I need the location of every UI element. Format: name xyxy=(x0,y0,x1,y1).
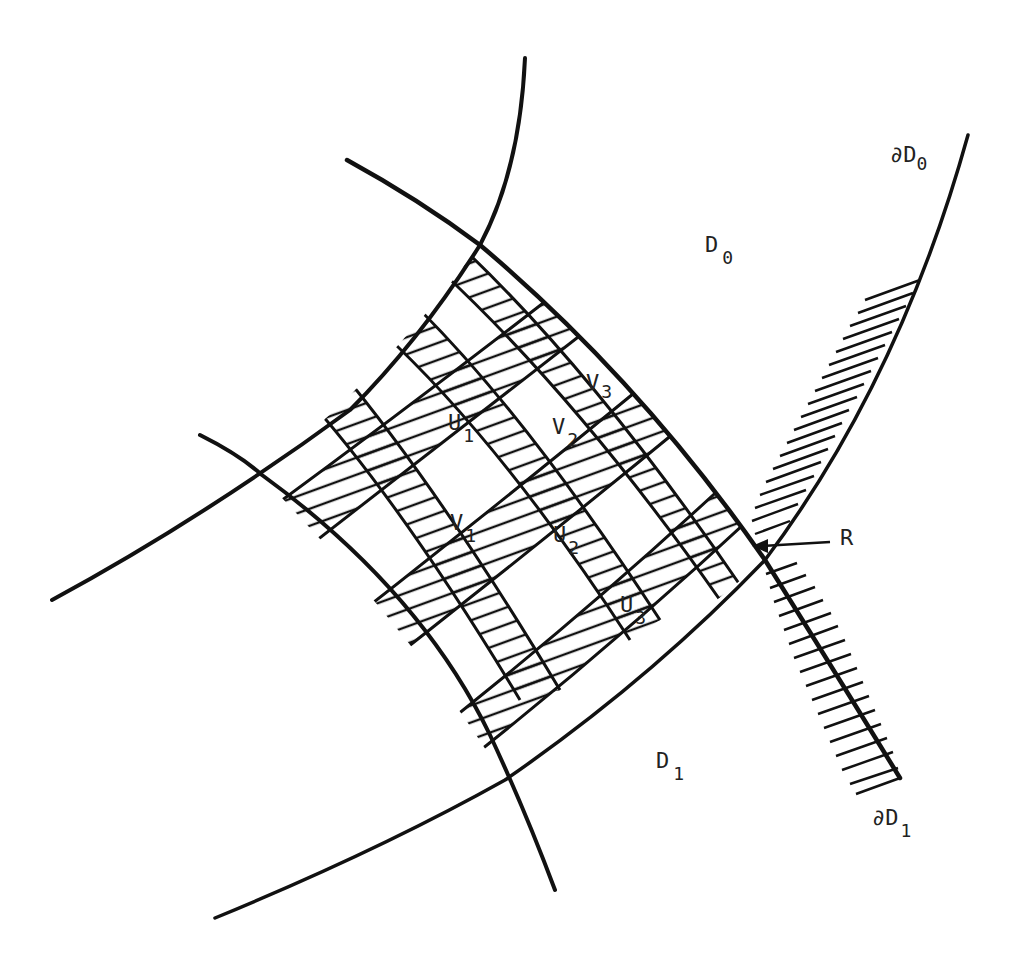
label-boundary-d0: ∂D0 xyxy=(890,142,927,174)
label-boundary-d1: ∂D1 xyxy=(872,805,911,841)
label-r: R xyxy=(840,525,854,550)
r-arrow xyxy=(752,539,830,553)
label-v2: V2 xyxy=(552,414,578,450)
label-d1: D1 xyxy=(656,748,684,784)
label-d0: D0 xyxy=(705,232,733,268)
main-curves xyxy=(52,58,968,918)
diagram-canvas: ∂D0 D0 D1 ∂D1 R U1 U2 U3 V1 V2 V3 xyxy=(0,0,1019,980)
boundary-hatching xyxy=(752,280,920,794)
